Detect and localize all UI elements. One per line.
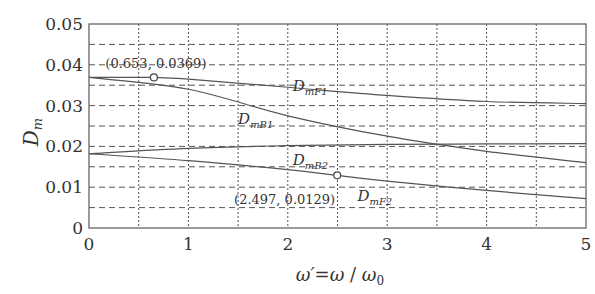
annotations: (0.653, 0.0369)(2.497, 0.0129)DmF1DmB1Dm…: [105, 56, 392, 207]
annotation-marker: [150, 74, 157, 81]
y-tick-label: 0.05: [45, 14, 83, 34]
y-tick-label: 0: [72, 218, 83, 238]
x-axis-label: ω′=ω / ω0: [296, 264, 384, 288]
series-label-mf1: DmF1: [292, 77, 328, 97]
grid: [89, 24, 586, 228]
series-label-mb2: DmB2: [292, 151, 328, 171]
tick-labels: 01234500.010.020.030.040.05: [45, 14, 591, 254]
x-tick-label: 4: [481, 234, 492, 254]
x-tick-label: 5: [581, 234, 592, 254]
annotation-label: (0.653, 0.0369): [105, 56, 206, 71]
y-tick-label: 0.04: [45, 55, 83, 75]
y-tick-label: 0.03: [45, 96, 83, 116]
x-tick-label: 1: [183, 234, 194, 254]
annotation-marker: [334, 172, 341, 179]
chart: 01234500.010.020.030.040.05 (0.653, 0.03…: [0, 0, 595, 294]
annotation-label: (2.497, 0.0129): [234, 192, 335, 207]
y-tick-label: 0.01: [45, 177, 83, 197]
x-tick-label: 3: [382, 234, 393, 254]
series-label-mf2: DmF2: [356, 187, 392, 207]
y-axis-label: Dm: [19, 118, 45, 147]
y-tick-label: 0.02: [45, 136, 83, 156]
x-tick-label: 2: [282, 234, 293, 254]
x-tick-label: 0: [84, 234, 95, 254]
series-label-mb1: DmB1: [237, 110, 273, 130]
